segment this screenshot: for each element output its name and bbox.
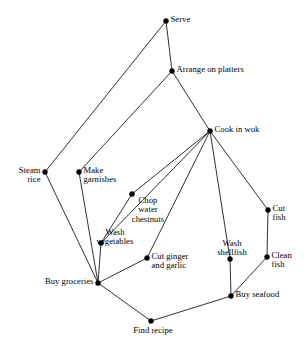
graph-node-recipe[interactable] bbox=[149, 319, 154, 324]
node-label-chestnuts: Chop water chestnuts bbox=[0, 196, 302, 225]
node-label-groceries: Buy groceries bbox=[45, 277, 94, 287]
graph-edge bbox=[166, 21, 172, 71]
graph-edge bbox=[132, 131, 210, 194]
node-label-cutfish: Cut fish bbox=[273, 204, 286, 223]
graph-edge bbox=[98, 258, 147, 283]
graph-node-steam[interactable] bbox=[43, 170, 48, 175]
graph-edge bbox=[45, 21, 166, 172]
graph-edge bbox=[230, 259, 231, 296]
node-label-cook: Cook in wok bbox=[215, 125, 260, 135]
graph-node-garnishes[interactable] bbox=[77, 170, 82, 175]
graph-node-serve[interactable] bbox=[164, 19, 169, 24]
node-label-arrange: Arrange on platters bbox=[177, 65, 244, 75]
graph-node-seafood[interactable] bbox=[229, 294, 234, 299]
graph-edge bbox=[79, 71, 172, 172]
graph-node-groceries[interactable] bbox=[96, 281, 101, 286]
diagram-canvas: ServeArrange on plattersCook in wokSteam… bbox=[0, 0, 307, 341]
graph-edge bbox=[172, 71, 210, 131]
node-label-serve: Serve bbox=[171, 15, 191, 25]
graph-edge bbox=[98, 283, 151, 321]
node-label-cleanfish: Clean fish bbox=[272, 251, 292, 270]
graph-edge bbox=[151, 296, 231, 321]
node-label-steam: Steam rice bbox=[19, 166, 41, 185]
graph-node-arrange[interactable] bbox=[170, 69, 175, 74]
node-label-seafood: Buy seafood bbox=[236, 290, 280, 300]
node-label-recipe: Find recipe bbox=[0, 326, 307, 336]
graph-node-cook[interactable] bbox=[208, 129, 213, 134]
node-label-garnishes: Make garnishes bbox=[84, 166, 117, 185]
